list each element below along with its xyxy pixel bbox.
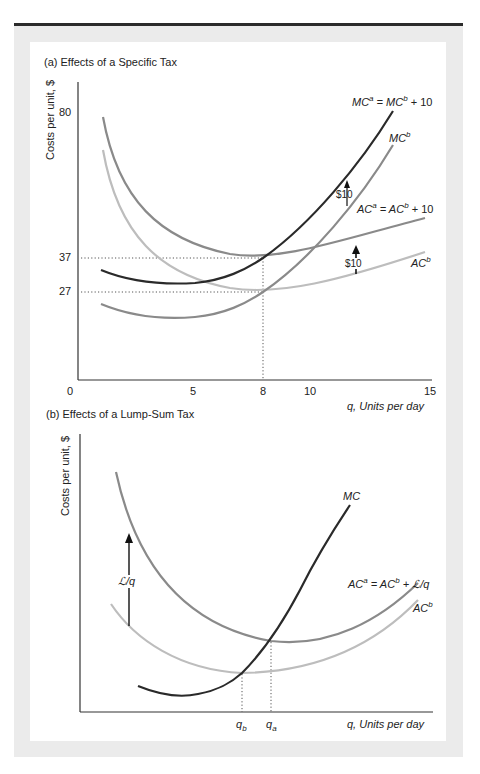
panel-a-x-label: q, Units per day (347, 400, 424, 412)
panel-b-x-label: q, Units per day (347, 718, 424, 730)
label-arrow-lump: ℒ/q (117, 575, 136, 588)
label-ac-a-lump-eq: = AC (368, 578, 395, 590)
label-mc-lump: MC (343, 490, 360, 502)
curve-ac-b-lump (111, 600, 418, 673)
label-arrow-ac-10: $10 (345, 258, 362, 269)
label-ac-a: ACa = ACb + 10 (357, 201, 433, 215)
x-tick-8: 8 (260, 385, 266, 397)
x-tick-qa: qa (266, 718, 277, 733)
label-ac-b-sup: b (426, 255, 430, 264)
curve-mc-b (101, 145, 393, 318)
curve-mc-lump (138, 505, 350, 696)
arrow-ac-10-head (352, 245, 360, 254)
label-ac-b: ACb (411, 255, 431, 269)
label-mc-b-main: MC (389, 132, 406, 144)
label-ac-a-lump-main: AC (348, 578, 363, 590)
label-mc-b-sup: b (406, 130, 410, 139)
label-ac-a-main: AC (357, 203, 372, 215)
label-ac-a-lump: ACa = ACb + ℒ/q (348, 576, 429, 591)
panel-a-x-label-text: q, Units per day (347, 400, 424, 412)
label-ac-a-eq: = AC (377, 203, 404, 215)
label-mc-lump-text: MC (343, 490, 360, 502)
label-ac-b-lump: ACb (413, 600, 433, 614)
label-ac-b-lump-sup: b (428, 600, 432, 609)
curve-ac-a-lump (116, 472, 418, 642)
y-tick-27: 27 (59, 285, 71, 297)
panel-a-y-label: Costs per unit, $ (44, 80, 56, 160)
x-tick-15: 15 (424, 385, 436, 397)
panel-b-y-label: Costs per unit, $ (59, 436, 71, 516)
label-mc-a: MCa = MCb + 10 (352, 94, 432, 108)
label-ac-a-tail: + 10 (409, 203, 434, 215)
panel-b-x-label-text: q, Units per day (347, 718, 424, 730)
arrow-mc-10-head (344, 180, 350, 188)
arrow-lump-head (125, 533, 133, 543)
label-arrow-mc-10: $10 (336, 189, 353, 200)
x-tick-qb-sub: b (242, 724, 246, 733)
x-tick-qb: qb (236, 718, 247, 733)
label-mc-a-eq: = MC (374, 96, 404, 108)
label-ac-b-lump-main: AC (413, 602, 428, 614)
panel-b-title: (b) Effects of a Lump-Sum Tax (46, 408, 194, 420)
x-tick-qa-sub: a (272, 724, 276, 733)
y-tick-37: 37 (59, 251, 71, 263)
x-tick-0: 0 (67, 385, 73, 397)
x-tick-5: 5 (190, 385, 196, 397)
label-mc-b: MCb (389, 130, 411, 144)
label-ac-a-lump-tail: + ℒ/q (400, 578, 430, 590)
panel-b-plot (80, 434, 433, 712)
panel-a-plot (78, 82, 432, 380)
label-ac-b-main: AC (411, 257, 426, 269)
x-tick-10: 10 (304, 385, 316, 397)
label-mc-a-main: MC (352, 96, 369, 108)
panel-a-title: (a) Effects of a Specific Tax (44, 56, 177, 68)
label-mc-a-tail: + 10 (408, 96, 433, 108)
y-tick-80: 80 (59, 106, 71, 118)
